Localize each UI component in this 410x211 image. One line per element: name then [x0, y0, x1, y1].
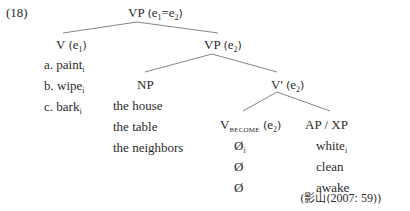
node-label: VP	[128, 5, 144, 20]
branch-root-vp	[137, 22, 218, 33]
verb-item: c. barki	[44, 99, 82, 114]
np-item: the table	[113, 119, 157, 134]
example-number: (18)	[6, 5, 28, 20]
citation-author: 影山	[304, 192, 326, 205]
subscript: i	[82, 65, 84, 74]
np-item: the neighbors	[113, 140, 183, 155]
node-vbar: V' (e2)	[271, 77, 304, 93]
null-item: Ø	[234, 159, 243, 174]
adjective-word: white	[316, 138, 345, 153]
verb-word: paint	[56, 57, 82, 72]
null-item: Ø	[234, 180, 243, 195]
node-root-vp: VP (e1=e2)	[128, 5, 183, 21]
adjective-item: clean	[316, 159, 343, 174]
branch-vp-np	[145, 54, 212, 72]
verb-item: a. painti	[44, 57, 85, 72]
equals: =	[161, 5, 168, 20]
item-prefix: c.	[44, 99, 53, 114]
node-label: V	[220, 117, 229, 132]
branch-vbar-apxp	[277, 92, 330, 111]
branch-vbar-vbecome	[243, 92, 277, 111]
paren: )	[277, 119, 281, 132]
citation: (影山(2007: 59))	[300, 191, 382, 206]
node-label: VP	[204, 37, 220, 52]
null-item: Øi	[234, 138, 246, 153]
paren: )	[377, 192, 381, 205]
verb-word: bark	[56, 99, 79, 114]
node-label: V	[56, 37, 65, 52]
paren: )	[300, 79, 304, 92]
verb-word: wipe	[57, 78, 82, 93]
node-vp: VP (e2)	[204, 37, 242, 53]
citation-year: 2007: 59	[331, 191, 373, 205]
adjective-item: whitei	[316, 138, 347, 153]
node-label: V'	[271, 77, 283, 92]
paren: )	[237, 39, 241, 52]
subscript: i	[243, 146, 245, 155]
null-symbol: Ø	[234, 138, 243, 153]
null-symbol: Ø	[234, 159, 243, 174]
subscript: i	[82, 86, 84, 95]
node-np: NP	[137, 77, 154, 92]
adjective-word: clean	[316, 159, 343, 174]
paren: )	[179, 7, 183, 20]
subscript: i	[79, 107, 81, 116]
null-symbol: Ø	[234, 180, 243, 195]
subscript: i	[345, 146, 347, 155]
np-item: the house	[113, 98, 162, 113]
item-prefix: b.	[44, 78, 54, 93]
branch-root-v	[63, 22, 137, 33]
branch-vp-vbar	[212, 54, 277, 72]
node-vbecome: VBECOME (e2)	[220, 117, 281, 138]
paren: )	[82, 39, 86, 52]
verb-item: b. wipei	[44, 78, 85, 93]
node-apxp: AP / XP	[305, 117, 348, 132]
item-prefix: a.	[44, 57, 53, 72]
subscript-become: BECOME	[229, 126, 259, 134]
node-v: V (e1)	[56, 37, 87, 53]
